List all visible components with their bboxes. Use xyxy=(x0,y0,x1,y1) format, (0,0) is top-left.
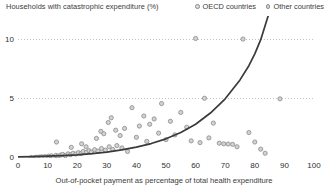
data-point xyxy=(278,97,282,101)
data-point xyxy=(226,142,230,146)
data-point xyxy=(54,140,58,144)
data-point xyxy=(179,110,183,114)
data-point xyxy=(142,114,146,118)
data-point xyxy=(207,136,211,140)
data-point xyxy=(159,101,163,105)
data-point xyxy=(211,121,215,125)
data-point xyxy=(115,143,119,147)
scatter-chart: Households with catastrophic expenditure… xyxy=(0,0,328,193)
data-point xyxy=(109,116,113,120)
x-tick-label: 70 xyxy=(216,161,234,170)
chart-legend: OECD countries Other countries xyxy=(195,2,324,11)
data-point xyxy=(106,120,110,124)
data-point xyxy=(259,147,263,151)
x-tick-label: 100 xyxy=(305,161,323,170)
data-point xyxy=(157,131,161,135)
y-axis-title: Households with catastrophic expenditure… xyxy=(6,2,159,11)
data-point xyxy=(168,119,172,123)
trend-curve xyxy=(18,16,268,157)
data-point xyxy=(152,117,156,121)
x-tick-label: 20 xyxy=(68,161,86,170)
data-point xyxy=(222,142,226,146)
data-point xyxy=(189,139,193,143)
x-tick-label: 50 xyxy=(157,161,175,170)
legend-item-oecd[interactable]: OECD countries xyxy=(195,2,256,11)
data-point xyxy=(235,145,239,149)
x-tick-label: 30 xyxy=(98,161,116,170)
data-point xyxy=(118,133,122,137)
data-point xyxy=(125,149,129,153)
legend-marker-other-icon xyxy=(266,4,271,9)
data-point xyxy=(134,135,138,139)
data-point xyxy=(148,122,152,126)
data-point xyxy=(241,37,245,41)
x-tick-label: 60 xyxy=(187,161,205,170)
data-point xyxy=(102,132,106,136)
data-point xyxy=(84,145,88,149)
x-tick-label: 0 xyxy=(9,161,27,170)
data-point xyxy=(217,141,221,145)
data-point xyxy=(122,126,126,130)
data-point xyxy=(202,96,206,100)
data-point xyxy=(114,128,118,132)
data-point xyxy=(69,145,73,149)
data-point xyxy=(80,142,84,146)
x-tick-label: 40 xyxy=(127,161,145,170)
x-axis-title: Out-of-pocket payment as percentage of t… xyxy=(0,176,328,185)
data-point xyxy=(145,139,149,143)
x-tick-label: 90 xyxy=(275,161,293,170)
data-point xyxy=(198,141,202,145)
data-point xyxy=(94,136,98,140)
data-point xyxy=(130,106,134,110)
plot-canvas xyxy=(18,16,314,158)
data-point xyxy=(194,36,198,40)
data-point xyxy=(247,130,251,134)
y-tick-label: 5 xyxy=(0,94,14,103)
legend-label-other: Other countries xyxy=(273,2,324,11)
x-tick-label: 80 xyxy=(246,161,264,170)
data-point xyxy=(253,140,257,144)
plot-area xyxy=(18,16,314,158)
y-tick-label: 10 xyxy=(0,35,14,44)
legend-marker-oecd-icon xyxy=(195,4,200,9)
data-point xyxy=(137,124,141,128)
x-tick-label: 10 xyxy=(39,161,57,170)
series-other xyxy=(29,36,282,158)
data-point xyxy=(263,151,267,155)
legend-item-other[interactable]: Other countries xyxy=(266,2,324,11)
data-point xyxy=(231,142,235,146)
legend-label-oecd: OECD countries xyxy=(203,2,256,11)
